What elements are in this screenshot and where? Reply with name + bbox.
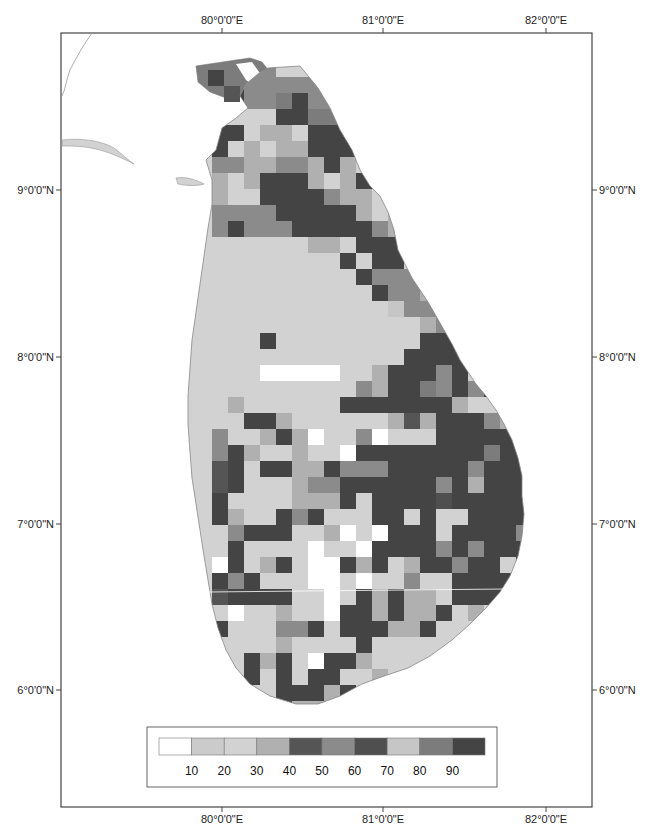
grid-cell: [372, 221, 388, 237]
grid-cell: [388, 477, 404, 493]
grid-cell: [420, 317, 436, 333]
legend-swatch: [420, 738, 453, 755]
grid-cell: [388, 621, 404, 637]
grid-cell: [340, 173, 356, 189]
grid-cell: [372, 365, 388, 381]
grid-cell: [516, 477, 532, 493]
bottom-lon-label: 82°0'0"E: [525, 813, 567, 825]
grid-cell: [468, 541, 484, 557]
grid-cell: [276, 205, 292, 221]
jaffna-cell: [208, 70, 224, 86]
left-lat-label: 6°0'0"N: [17, 684, 54, 696]
grid-cell: [468, 509, 484, 525]
grid-cell: [436, 429, 452, 445]
legend-break-label: 10: [185, 764, 199, 778]
grid-cell: [404, 413, 420, 429]
grid-cell: [356, 605, 372, 621]
grid-cell: [244, 525, 260, 541]
grid-cell: [516, 557, 532, 573]
grid-cell: [260, 701, 276, 717]
grid-cell: [276, 365, 292, 381]
grid-cell: [468, 493, 484, 509]
grid-cell: [532, 509, 548, 525]
grid-cell: [244, 157, 260, 173]
grid-cell: [388, 541, 404, 557]
grid-cell: [308, 157, 324, 173]
grid-cell: [276, 605, 292, 621]
grid-cell: [276, 125, 292, 141]
grid-cell: [244, 141, 260, 157]
grid-cell: [436, 301, 452, 317]
legend-swatch: [322, 738, 355, 755]
grid-cell: [308, 173, 324, 189]
legend-swatch: [355, 738, 388, 755]
grid-cell: [212, 205, 228, 221]
grid-cell: [420, 461, 436, 477]
grid-cell: [276, 189, 292, 205]
right-lat-label: 6°0'0"N: [599, 684, 636, 696]
grid-cell: [356, 205, 372, 221]
grid-cell: [404, 349, 420, 365]
grid-cell: [484, 525, 500, 541]
grid-cell: [228, 205, 244, 221]
grid-cell: [244, 205, 260, 221]
jaffna-cell: [224, 86, 240, 102]
grid-cell: [260, 205, 276, 221]
grid-cell: [308, 125, 324, 141]
grid-cell: [292, 205, 308, 221]
grid-cell: [452, 557, 468, 573]
grid-cell: [356, 269, 372, 285]
grid-cell: [436, 365, 452, 381]
grid-cell: [452, 461, 468, 477]
grid-cell: [532, 445, 548, 461]
grid-cell: [420, 525, 436, 541]
grid-cell: [308, 141, 324, 157]
grid-cell: [404, 621, 420, 637]
grid-cell: [308, 477, 324, 493]
grid-cell: [308, 573, 324, 589]
grid-cell: [260, 461, 276, 477]
grid-cell: [244, 573, 260, 589]
grid-cell: [420, 589, 436, 605]
grid-cell: [388, 365, 404, 381]
grid-cell: [324, 477, 340, 493]
grid-cell: [484, 413, 500, 429]
grid-cell: [276, 221, 292, 237]
grid-cell: [356, 621, 372, 637]
grid-cell: [340, 701, 356, 717]
grid-cell: [324, 461, 340, 477]
grid-cell: [212, 493, 228, 509]
grid-cell: [356, 653, 372, 669]
grid-cell: [356, 701, 372, 717]
grid-cell: [420, 381, 436, 397]
grid-cell: [292, 365, 308, 381]
grid-cell: [228, 125, 244, 141]
grid-cell: [404, 381, 420, 397]
legend-break-label: 60: [348, 764, 362, 778]
grid-cell: [436, 461, 452, 477]
left-lat-label: 7°0'0"N: [17, 518, 54, 530]
legend-swatch: [224, 738, 257, 755]
grid-cell: [356, 445, 372, 461]
grid-cell: [420, 333, 436, 349]
grid-cell: [324, 669, 340, 685]
grid-cell: [276, 621, 292, 637]
grid-cell: [484, 461, 500, 477]
grid-cell: [468, 605, 484, 621]
grid-cell: [244, 669, 260, 685]
grid-cell: [516, 429, 532, 445]
grid-cell: [324, 157, 340, 173]
grid-cell: [308, 109, 324, 125]
grid-cell: [308, 653, 324, 669]
top-lon-label: 80°0'0"E: [201, 14, 243, 26]
grid-cell: [340, 605, 356, 621]
grid-cell: [356, 125, 372, 141]
legend: 102030405060708090: [147, 727, 497, 787]
grid-cell: [276, 157, 292, 173]
grid-cell: [420, 237, 436, 253]
grid-cell: [356, 381, 372, 397]
grid-cell: [420, 397, 436, 413]
grid-cell: [260, 77, 276, 93]
grid-cell: [228, 221, 244, 237]
grid-cell: [308, 493, 324, 509]
